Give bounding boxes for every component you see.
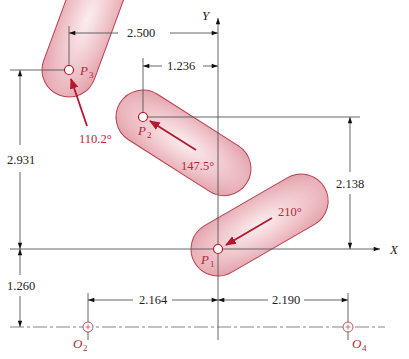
angle-p1: 210° — [278, 205, 302, 219]
dim-ground-y: 1.260 — [7, 279, 35, 293]
label-o4: O 4 — [352, 336, 367, 353]
linkage-diagram: Y X 2.500 1.236 2.931 2.138 1.260 2.164 … — [0, 0, 409, 359]
label-o2: O 2 — [73, 336, 88, 353]
p3-pivot-icon — [65, 66, 74, 75]
angle-p2: 147.5° — [181, 159, 214, 173]
dim-p2-x: 1.236 — [167, 59, 195, 73]
slot-p3 — [34, 0, 141, 105]
svg-text:3: 3 — [89, 70, 94, 80]
dim-p3-x: 2.500 — [127, 26, 155, 40]
y-axis-label: Y — [202, 8, 211, 23]
dim-o2-x: 2.164 — [139, 293, 168, 307]
svg-text:2: 2 — [83, 343, 88, 353]
svg-text:P: P — [79, 63, 88, 78]
svg-text:P: P — [137, 123, 146, 138]
x-axis-label: X — [389, 242, 399, 257]
svg-text:O: O — [352, 336, 362, 351]
p1-pivot-icon — [214, 245, 223, 254]
svg-text:1: 1 — [210, 259, 215, 269]
dim-p2-y: 2.138 — [336, 177, 364, 191]
p2-pivot-icon — [139, 113, 148, 122]
ground-pivot-o4-icon — [343, 322, 353, 332]
dim-p3-y: 2.931 — [7, 153, 35, 167]
angle-p3: 110.2° — [79, 132, 112, 146]
dim-o4-x: 2.190 — [272, 293, 300, 307]
svg-text:4: 4 — [362, 343, 367, 353]
ground-pivot-o2-icon — [83, 322, 93, 332]
svg-text:P: P — [200, 252, 209, 267]
svg-text:O: O — [73, 336, 83, 351]
svg-text:2: 2 — [147, 130, 152, 140]
